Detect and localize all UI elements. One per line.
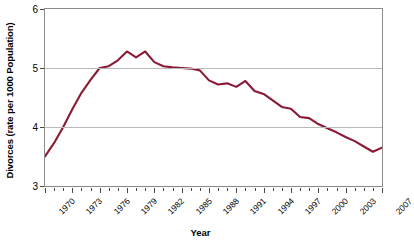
x-tick-mark-1993 [255, 188, 256, 191]
x-tick-mark-2004 [355, 188, 356, 191]
x-tick-label-1988: 1988 [220, 196, 240, 216]
y-tick-label-5: 5 [0, 63, 38, 74]
x-tick-label-1985: 1985 [193, 196, 213, 216]
x-tick-mark-1983 [163, 188, 164, 191]
x-tick-mark-1996 [282, 188, 283, 191]
x-tick-label-1976: 1976 [111, 196, 131, 216]
y-axis-title: Divorces (rate per 1000 Population) [0, 0, 21, 200]
x-tick-mark-1988 [209, 188, 210, 193]
x-tick-mark-1997 [291, 188, 292, 193]
x-tick-mark-1980 [136, 188, 137, 191]
x-tick-mark-2002 [337, 188, 338, 191]
x-tick-mark-2005 [364, 188, 365, 191]
data-line-svg [45, 9, 382, 186]
x-tick-mark-1975 [91, 188, 92, 191]
x-tick-mark-1991 [236, 188, 237, 193]
x-tick-mark-1999 [309, 188, 310, 191]
y-tick-label-6: 6 [0, 4, 38, 15]
x-tick-label-2007: 2007 [394, 196, 414, 216]
x-tick-mark-1982 [154, 188, 155, 193]
x-tick-mark-2000 [318, 188, 319, 193]
x-tick-mark-1985 [182, 188, 183, 193]
gridline-y-5 [45, 68, 382, 69]
x-tick-mark-1981 [145, 188, 146, 191]
x-tick-label-1970: 1970 [57, 196, 77, 216]
x-axis-title: Year [0, 227, 401, 238]
x-tick-label-1994: 1994 [275, 196, 295, 216]
y-axis-title-text: Divorces (rate per 1000 Population) [5, 22, 16, 178]
y-tick-label-3: 3 [0, 181, 38, 192]
x-tick-mark-1994 [264, 188, 265, 193]
plot-area [44, 8, 383, 187]
x-tick-label-1997: 1997 [302, 196, 322, 216]
x-tick-mark-1976 [100, 188, 101, 193]
x-tick-mark-1986 [191, 188, 192, 191]
y-tick-label-4: 4 [0, 122, 38, 133]
x-tick-mark-1972 [63, 188, 64, 191]
x-tick-label-1982: 1982 [166, 196, 186, 216]
x-tick-label-1979: 1979 [139, 196, 159, 216]
x-tick-mark-1973 [72, 188, 73, 193]
x-tick-mark-1970 [45, 188, 46, 193]
x-tick-mark-1990 [227, 188, 228, 191]
x-tick-label-2003: 2003 [357, 196, 377, 216]
x-tick-mark-2007 [382, 188, 383, 193]
x-tick-mark-1971 [54, 188, 55, 191]
x-tick-mark-1977 [109, 188, 110, 191]
x-tick-mark-1974 [81, 188, 82, 191]
x-tick-mark-1989 [218, 188, 219, 191]
x-tick-label-1991: 1991 [248, 196, 268, 216]
x-tick-mark-1984 [173, 188, 174, 191]
x-tick-mark-2006 [373, 188, 374, 191]
x-tick-label-2000: 2000 [330, 196, 350, 216]
x-tick-mark-1978 [118, 188, 119, 191]
x-tick-mark-1987 [200, 188, 201, 191]
x-tick-label-1973: 1973 [84, 196, 104, 216]
gridline-y-4 [45, 127, 382, 128]
x-tick-mark-1995 [273, 188, 274, 191]
x-tick-mark-2001 [327, 188, 328, 191]
x-tick-mark-1998 [300, 188, 301, 191]
x-tick-mark-1992 [245, 188, 246, 191]
x-tick-mark-1979 [127, 188, 128, 193]
x-tick-mark-2003 [346, 188, 347, 193]
